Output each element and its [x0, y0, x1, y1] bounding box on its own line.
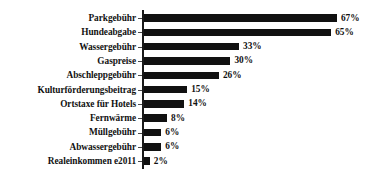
- category-label: Ortstaxe für Hotels: [0, 97, 136, 111]
- bar-with-value: 26%: [144, 71, 241, 79]
- bar-value-label: 33%: [243, 42, 262, 51]
- bar-row: Abschleppgebühr26%: [0, 68, 368, 82]
- category-label: Fernwärme: [0, 111, 136, 125]
- bar-value-label: 67%: [341, 14, 360, 23]
- category-label: Hundeabgabe: [0, 25, 136, 39]
- bar-with-value: 2%: [144, 157, 168, 165]
- axis-tick: [138, 161, 142, 162]
- bar: [144, 157, 150, 165]
- axis-tick: [138, 90, 142, 91]
- bar-row: Realeinkommen e20112%: [0, 154, 368, 168]
- bar: [144, 43, 239, 51]
- bar-chart-figure: Parkgebühr67%Hundeabgabe65%Wassergebühr3…: [0, 0, 368, 175]
- bar: [144, 14, 337, 22]
- category-label: Parkgebühr: [0, 11, 136, 25]
- bar: [144, 143, 161, 151]
- bar-with-value: 14%: [144, 100, 207, 108]
- bar-with-value: 15%: [144, 86, 210, 94]
- bar: [144, 100, 184, 108]
- bar: [144, 29, 331, 37]
- bar-with-value: 6%: [144, 143, 179, 151]
- bar-with-value: 8%: [144, 114, 185, 122]
- axis-tick: [138, 104, 142, 105]
- bar-with-value: 67%: [144, 14, 360, 22]
- axis-tick: [138, 47, 142, 48]
- category-label: Gaspreise: [0, 54, 136, 68]
- bar-with-value: 30%: [144, 57, 253, 65]
- category-label: Kulturförderungsbeitrag: [0, 83, 136, 97]
- bar-row: Fernwärme8%: [0, 111, 368, 125]
- bar-row: Gaspreise30%: [0, 54, 368, 68]
- bar-value-label: 15%: [191, 85, 210, 94]
- bar-row: Ortstaxe für Hotels14%: [0, 97, 368, 111]
- category-label: Abwassergebühr: [0, 140, 136, 154]
- bar-row: Wassergebühr33%: [0, 40, 368, 54]
- bar-value-label: 30%: [234, 56, 253, 65]
- bar-value-label: 14%: [188, 99, 207, 108]
- category-label: Realeinkommen e2011: [0, 154, 136, 168]
- bar: [144, 57, 230, 65]
- axis-tick: [138, 32, 142, 33]
- bar-row: Hundeabgabe65%: [0, 25, 368, 39]
- plot-area: Parkgebühr67%Hundeabgabe65%Wassergebühr3…: [0, 0, 368, 175]
- bar-value-label: 65%: [335, 28, 354, 37]
- category-label: Müllgebühr: [0, 125, 136, 139]
- bar-value-label: 2%: [154, 157, 168, 166]
- bar-row: Parkgebühr67%: [0, 11, 368, 25]
- category-label: Wassergebühr: [0, 40, 136, 54]
- bar-row: Kulturförderungsbeitrag15%: [0, 83, 368, 97]
- bar-with-value: 65%: [144, 28, 354, 36]
- bar: [144, 114, 167, 122]
- axis-tick: [138, 75, 142, 76]
- axis-tick: [138, 118, 142, 119]
- bar-with-value: 6%: [144, 129, 179, 137]
- bar-with-value: 33%: [144, 43, 262, 51]
- axis-tick: [138, 133, 142, 134]
- bar-value-label: 8%: [171, 114, 185, 123]
- bar-value-label: 6%: [165, 128, 179, 137]
- bar-row: Abwassergebühr6%: [0, 140, 368, 154]
- axis-tick: [138, 61, 142, 62]
- bar: [144, 72, 219, 80]
- bar-value-label: 26%: [223, 71, 242, 80]
- bar-row: Müllgebühr6%: [0, 125, 368, 139]
- bar: [144, 86, 187, 94]
- category-label: Abschleppgebühr: [0, 68, 136, 82]
- axis-tick: [138, 18, 142, 19]
- bar-value-label: 6%: [165, 142, 179, 151]
- axis-tick: [138, 147, 142, 148]
- bar: [144, 129, 161, 137]
